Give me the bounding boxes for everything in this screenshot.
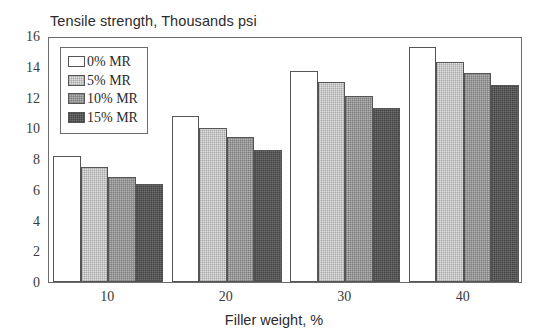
legend-label: 15% MR	[87, 110, 138, 125]
bar	[136, 184, 164, 282]
y-tick-label: 2	[8, 244, 40, 260]
bar	[464, 73, 492, 282]
plot-frame: 0% MR5% MR10% MR15% MR	[48, 37, 522, 283]
y-tick-label: 8	[8, 152, 40, 168]
y-tick-label: 12	[8, 91, 40, 107]
bar	[318, 82, 346, 282]
legend-label: 0% MR	[87, 54, 131, 69]
legend-swatch-icon	[68, 112, 85, 123]
bar	[491, 85, 519, 282]
legend-item: 10% MR	[68, 90, 138, 109]
bar	[436, 62, 464, 282]
x-tick-label: 40	[433, 289, 493, 305]
legend-item: 15% MR	[68, 109, 138, 128]
legend-swatch-icon	[68, 56, 85, 67]
legend-item: 0% MR	[68, 53, 138, 72]
y-tick-label: 10	[8, 121, 40, 137]
y-tick-label: 6	[8, 183, 40, 199]
legend-label: 5% MR	[87, 73, 131, 88]
bar	[373, 108, 401, 282]
x-tick-label: 30	[314, 289, 374, 305]
y-tick-label: 14	[8, 60, 40, 76]
bar	[227, 137, 255, 282]
bar-chart-figure: Tensile strength, Thousands psi 02468101…	[0, 0, 548, 336]
legend-label: 10% MR	[87, 91, 138, 106]
bar	[81, 167, 109, 282]
x-tick-label: 10	[77, 289, 137, 305]
x-axis-title: Filler weight, %	[0, 312, 548, 328]
y-tick-label: 16	[8, 29, 40, 45]
bar	[345, 96, 373, 282]
x-tick-label: 20	[196, 289, 256, 305]
bar	[172, 116, 200, 282]
y-tick-label: 0	[8, 275, 40, 291]
bar	[290, 71, 318, 282]
bar	[199, 128, 227, 282]
legend-swatch-icon	[68, 75, 85, 86]
chart-legend: 0% MR5% MR10% MR15% MR	[60, 47, 148, 134]
y-tick-label: 4	[8, 214, 40, 230]
bar	[254, 150, 282, 282]
bar	[409, 47, 437, 282]
bar	[53, 156, 81, 282]
legend-swatch-icon	[68, 93, 85, 104]
chart-title: Tensile strength, Thousands psi	[50, 13, 257, 29]
bar	[108, 177, 136, 282]
legend-item: 5% MR	[68, 72, 138, 91]
